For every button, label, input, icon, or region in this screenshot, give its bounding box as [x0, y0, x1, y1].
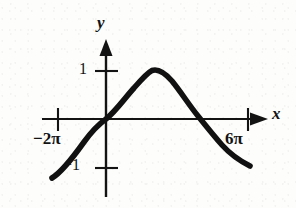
x-tick-label-six-pi: 6π — [225, 130, 243, 147]
y-tick-label-one: 1 — [79, 61, 87, 77]
y-tick-label-neg-one: −1 — [63, 157, 80, 173]
figure-container: . y x 1 −1 −2π 6π — [0, 0, 296, 208]
x-axis-label: x — [272, 105, 281, 122]
graph-canvas — [0, 0, 296, 208]
sine-curve — [52, 70, 250, 178]
x-tick-label-neg-two-pi: −2π — [33, 130, 61, 147]
x-axis-arrowhead-icon — [250, 113, 268, 126]
y-axis-arrowhead-icon — [100, 39, 113, 56]
y-axis-label: y — [97, 14, 105, 31]
